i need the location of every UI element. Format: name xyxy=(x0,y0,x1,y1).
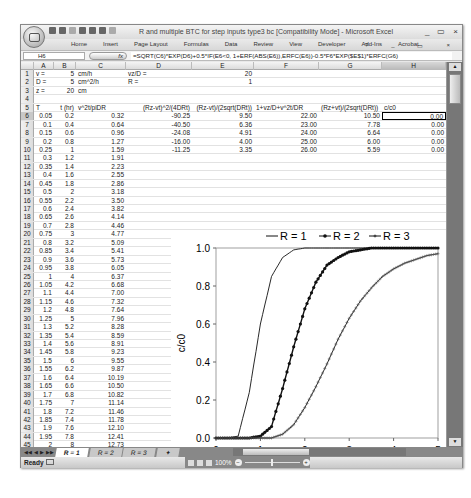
macro-record-icon[interactable] xyxy=(46,459,54,465)
cell-t[interactable]: 5.2 xyxy=(54,323,76,331)
cell-T[interactable]: 1.1 xyxy=(34,289,54,297)
tab-home[interactable]: Home xyxy=(63,39,95,50)
cell-T[interactable]: 1.4 xyxy=(34,340,54,348)
cell-e[interactable]: 3.35 xyxy=(192,146,254,154)
cell-t[interactable]: 3 xyxy=(54,230,76,238)
cell-t[interactable]: 6.4 xyxy=(54,374,76,382)
cell-d[interactable]: -90.25 xyxy=(126,112,192,120)
row-header[interactable]: 30 xyxy=(21,315,34,323)
row-header[interactable]: 39 xyxy=(21,391,34,399)
row-header[interactable]: 4 xyxy=(21,95,34,103)
cell-c[interactable]: 4.14 xyxy=(76,213,126,221)
cell-T[interactable]: 1.75 xyxy=(34,399,54,407)
tab-page-layout[interactable]: Page Layout xyxy=(126,39,176,50)
cell-t[interactable]: 0.8 xyxy=(54,138,76,146)
cell-c[interactable]: 5.41 xyxy=(76,247,126,255)
cell-T[interactable]: 0.45 xyxy=(34,180,54,188)
cell-h[interactable]: 0.00 xyxy=(382,138,446,146)
minimize-button[interactable]: _ xyxy=(425,27,429,36)
row-header[interactable]: 31 xyxy=(21,323,34,331)
cell-T[interactable]: 0.3 xyxy=(34,154,54,162)
cell-T[interactable]: 1.15 xyxy=(34,298,54,306)
cell-c[interactable]: 2.86 xyxy=(76,180,126,188)
cell-c[interactable]: 5.73 xyxy=(76,256,126,264)
cell-T[interactable]: 1.05 xyxy=(34,281,54,289)
row-header[interactable]: 20 xyxy=(21,230,34,238)
cell-e[interactable]: 4.91 xyxy=(192,129,254,137)
zoom-level[interactable]: 100% xyxy=(215,459,232,466)
cell-f[interactable]: 22.00 xyxy=(254,112,319,120)
cell-T[interactable]: 1.25 xyxy=(34,315,54,323)
name-box[interactable]: H6 xyxy=(23,52,85,60)
cell-c[interactable]: 7.64 xyxy=(76,306,126,314)
row-header[interactable]: 21 xyxy=(21,239,34,247)
cell-t[interactable]: 4 xyxy=(54,273,76,281)
column-header-e[interactable]: E xyxy=(192,62,254,70)
cell-c[interactable]: 10.82 xyxy=(76,391,126,399)
print-preview-icon[interactable] xyxy=(79,27,86,34)
cell-t[interactable]: 6 xyxy=(54,357,76,365)
row-header[interactable]: 41 xyxy=(21,408,34,416)
cell-c[interactable]: 8.28 xyxy=(76,323,126,331)
row-header[interactable]: 32 xyxy=(21,332,34,340)
row-header[interactable]: 43 xyxy=(21,424,34,432)
tab-review[interactable]: Review xyxy=(245,39,281,50)
cell-t[interactable]: 3.4 xyxy=(54,247,76,255)
cell-f[interactable]: 24.00 xyxy=(254,129,319,137)
column-header-b[interactable]: B xyxy=(54,62,76,70)
cell-T[interactable]: 0.95 xyxy=(34,264,54,272)
sheet-tab-r1[interactable]: R = 1 xyxy=(55,448,88,457)
row-header[interactable]: 8 xyxy=(21,129,34,137)
row-header[interactable]: 33 xyxy=(21,340,34,348)
column-header-d[interactable]: D xyxy=(126,62,192,70)
row-header[interactable]: 23 xyxy=(21,256,34,264)
header-t-hr[interactable]: t (hr) xyxy=(54,104,76,112)
doc-restore-button[interactable]: ▭ xyxy=(409,40,431,49)
cell-T[interactable]: 1.85 xyxy=(34,416,54,424)
undo-icon[interactable] xyxy=(59,27,66,34)
cell-t[interactable]: 2 xyxy=(54,188,76,196)
cell-T[interactable]: 0.15 xyxy=(34,129,54,137)
cell-c[interactable]: 12.41 xyxy=(76,433,126,441)
cell-t[interactable]: 7 xyxy=(54,399,76,407)
formula-input[interactable]: =SQRT(C6)*EXP(D6)+0.5*IF(E6<0, 1+ERF(ABS… xyxy=(131,52,452,60)
row-header[interactable]: 19 xyxy=(21,222,34,230)
row-header[interactable]: 5 xyxy=(21,104,34,112)
row-header[interactable]: 7 xyxy=(21,121,34,129)
cell-h[interactable]: 0.00 xyxy=(382,129,446,137)
tab-formulas[interactable]: Formulas xyxy=(176,39,217,50)
select-all-button[interactable] xyxy=(21,62,34,70)
cell-T[interactable]: 0.5 xyxy=(34,188,54,196)
cell-c[interactable]: 9.23 xyxy=(76,348,126,356)
new-icon[interactable] xyxy=(109,27,116,34)
cell-t[interactable]: 6.8 xyxy=(54,391,76,399)
cell-a2[interactable]: D = xyxy=(34,78,54,86)
cell-t[interactable]: 4.8 xyxy=(54,306,76,314)
cell-T[interactable]: 1.5 xyxy=(34,357,54,365)
cell-c[interactable]: 1.27 xyxy=(76,138,126,146)
scroll-up-arrow-icon[interactable]: ▲ xyxy=(449,63,461,71)
cell-t[interactable]: 1.2 xyxy=(54,154,76,162)
cell-h[interactable]: 0.00 xyxy=(382,112,446,120)
cell-c[interactable]: 11.78 xyxy=(76,416,126,424)
cell-b2[interactable]: 5 xyxy=(54,78,76,86)
office-button[interactable] xyxy=(23,26,45,48)
zoom-in-icon[interactable]: + xyxy=(303,459,310,466)
cell-t[interactable]: 1.6 xyxy=(54,171,76,179)
cell-t[interactable]: 2.6 xyxy=(54,213,76,221)
cell-T[interactable]: 0.9 xyxy=(34,256,54,264)
cell-g[interactable]: 6.00 xyxy=(319,138,382,146)
cell-T[interactable]: 0.55 xyxy=(34,197,54,205)
cell-c1[interactable]: cm/h xyxy=(76,70,126,78)
cell-h[interactable]: 0.00 xyxy=(382,146,446,154)
cell-e2[interactable]: 1 xyxy=(192,78,254,86)
cell-g[interactable]: 7.78 xyxy=(319,121,382,129)
cell-c[interactable]: 7.00 xyxy=(76,289,126,297)
cell-c[interactable]: 2.55 xyxy=(76,171,126,179)
scroll-down-arrow-icon[interactable]: ▼ xyxy=(449,438,461,446)
cell-T[interactable]: 0.35 xyxy=(34,163,54,171)
worksheet-grid[interactable]: A B C D E F G H 1 v = 5 cm/h vz/D = 20 2… xyxy=(21,62,446,447)
cell-T[interactable]: 0.1 xyxy=(34,121,54,129)
cell-t[interactable]: 0.2 xyxy=(54,112,76,120)
prev-sheet-icon[interactable]: ◀ xyxy=(34,449,38,455)
